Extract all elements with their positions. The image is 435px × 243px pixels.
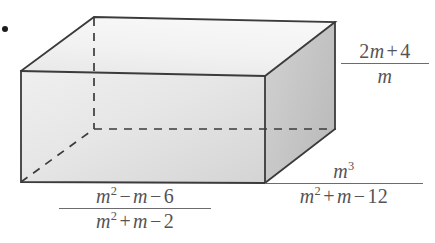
prism-front-face — [21, 71, 265, 183]
height-den-variable: m — [378, 65, 393, 87]
height-num-constant: 4 — [400, 40, 410, 62]
depth-den-operator-1: + — [321, 185, 337, 207]
width-num-constant: 6 — [164, 185, 174, 207]
depth-numerator: m3 — [265, 161, 423, 183]
depth-label: m3 m2+m−12 — [265, 161, 423, 207]
height-num-coefficient: 2 — [359, 40, 369, 62]
height-num-variable: m — [370, 40, 385, 62]
height-label: 2m+4 m — [341, 41, 429, 87]
width-den-operator-1: + — [117, 210, 133, 232]
height-num-operator: + — [385, 40, 401, 62]
width-den-constant: 2 — [164, 210, 174, 232]
width-den-term2-variable: m — [133, 210, 148, 232]
depth-num-variable: m — [333, 160, 348, 182]
width-denominator: m2+m−2 — [59, 208, 211, 232]
height-numerator: 2m+4 — [341, 41, 429, 63]
width-num-term2-variable: m — [133, 185, 148, 207]
depth-den-constant: 12 — [367, 185, 388, 207]
width-label: m2−m−6 m2+m−2 — [59, 186, 211, 232]
depth-den-operator-2: − — [352, 185, 368, 207]
width-den-operator-2: − — [148, 210, 164, 232]
width-num-term1-variable: m — [96, 185, 111, 207]
figure-container: 2m+4 m m3 m2+m−12 m2−m−6 m2+m−2 — [0, 0, 435, 243]
width-num-operator-1: − — [117, 185, 133, 207]
width-num-operator-2: − — [148, 185, 164, 207]
depth-den-term2-variable: m — [337, 185, 352, 207]
width-numerator: m2−m−6 — [59, 186, 211, 208]
width-den-term1-variable: m — [96, 210, 111, 232]
depth-den-term1-variable: m — [300, 185, 315, 207]
height-denominator: m — [341, 63, 429, 87]
depth-denominator: m2+m−12 — [265, 183, 423, 207]
depth-num-exponent: 3 — [348, 159, 355, 173]
